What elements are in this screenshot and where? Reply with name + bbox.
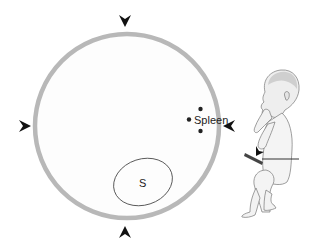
spleen-dot-icon [187,117,191,121]
transducer-probe-icon [244,153,263,165]
arrowhead-top-icon [119,15,131,27]
stomach-label: S [139,177,146,189]
spleen-dot-icon [198,107,202,111]
arrowhead-bottom-icon [119,226,131,238]
fetus-figure [242,70,299,217]
cross-section-circle [35,34,219,218]
diagram-canvas: Spleen S [0,0,318,241]
arrowhead-left-icon [19,120,31,132]
spleen-label: Spleen [194,114,228,126]
spleen-dot-icon [198,129,202,133]
